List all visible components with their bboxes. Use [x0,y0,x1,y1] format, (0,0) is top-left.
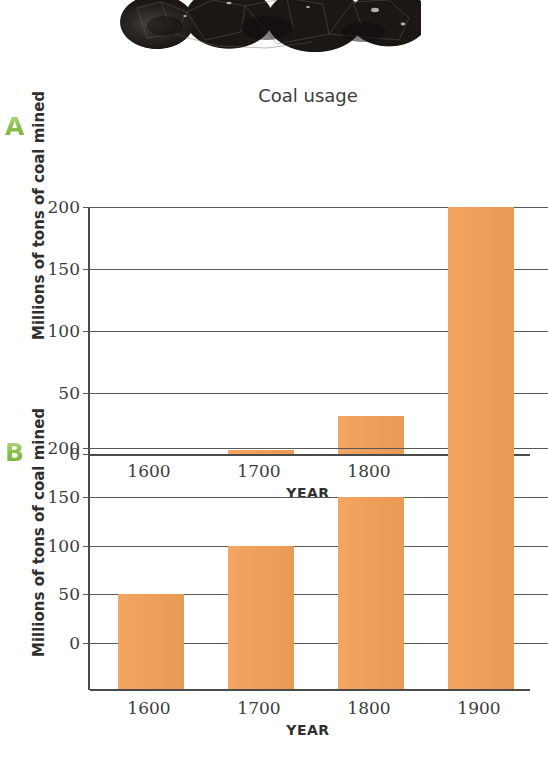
xtick-label-b-1900: 1900 [457,698,500,718]
chart-panel-a: A Coal usage Millions of tons of coal mi… [0,85,548,425]
ytick-mark-50 [83,393,90,394]
xtick-label-b-1800: 1800 [347,698,390,718]
ytick-mark-150 [83,269,90,270]
coal-lump-photograph [117,0,421,68]
ytick-stub-right-50 [530,393,548,394]
ytick-label-50: 50 [58,383,80,403]
panel-letter-a: A [5,114,24,139]
bar-1900[interactable] [448,207,514,454]
ytick-stub-right-200 [530,207,548,208]
ytick-stub-right-150 [530,269,548,270]
ytick-mark-100 [83,331,90,332]
coal-lump-shape [117,0,421,68]
ytick-label-150: 150 [48,259,80,279]
ytick-stub-right-100 [530,331,548,332]
y-axis-title-a: Millions of tons of coal mined [30,92,48,340]
xtick-label-b-1600: 1600 [127,698,170,718]
ytick-label-100: 100 [48,321,80,341]
chart-panel-b-labels: 1600 1700 1800 1900 YEAR [0,432,548,759]
ytick-mark-200 [83,207,90,208]
xtick-label-b-1700: 1700 [237,698,280,718]
chart-title-a: Coal usage [88,85,528,106]
plot-area-a: 200 150 100 50 0 [88,207,528,455]
ytick-label-200: 200 [48,197,80,217]
x-axis-title-b: YEAR [88,722,528,738]
